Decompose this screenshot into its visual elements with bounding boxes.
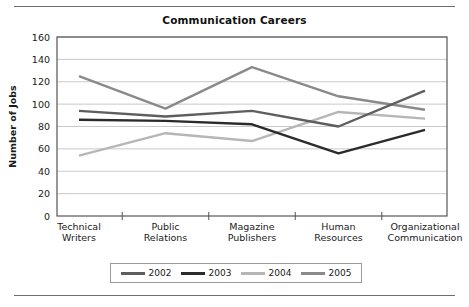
legend-item-2005[interactable]: 2005	[301, 269, 352, 278]
x-axis-category-label: Communication	[388, 232, 463, 243]
legend-label-2004: 2004	[269, 269, 292, 278]
legend-swatch-2005	[301, 272, 325, 275]
x-axis-category-label: Magazine	[229, 221, 275, 232]
line-chart-plot: 020406080100120140160TechnicalWritersPub…	[0, 0, 469, 307]
x-axis-category-label: Publishers	[228, 232, 277, 243]
legend-swatch-2003	[181, 272, 205, 275]
y-axis-tick-label: 100	[32, 99, 50, 110]
y-axis-tick-label: 0	[44, 211, 50, 222]
chart-legend: 2002200320042005	[110, 263, 362, 283]
legend-item-2004[interactable]: 2004	[241, 269, 292, 278]
legend-swatch-2004	[241, 272, 265, 275]
x-axis-category-label: Resources	[314, 232, 363, 243]
series-line-2005	[79, 67, 425, 110]
x-axis-category-label: Technical	[56, 221, 101, 232]
chart-figure: Communication Careers 020406080100120140…	[0, 0, 469, 307]
x-axis-category-label: Relations	[144, 232, 188, 243]
legend-item-2003[interactable]: 2003	[181, 269, 232, 278]
legend-swatch-2002	[121, 272, 145, 275]
x-axis-category-label: Public	[151, 221, 179, 232]
y-axis-tick-label: 120	[32, 76, 50, 87]
legend-label-2005: 2005	[329, 269, 352, 278]
x-axis-category-label: Writers	[62, 232, 96, 243]
y-axis-tick-label: 160	[32, 32, 50, 43]
series-line-2003	[79, 120, 425, 154]
y-axis-tick-label: 40	[38, 166, 50, 177]
y-axis-tick-label: 80	[38, 121, 50, 132]
legend-label-2003: 2003	[209, 269, 232, 278]
bottom-divider-rule	[14, 295, 455, 296]
y-axis-title: Number of Jobs	[7, 85, 18, 168]
legend-item-2002[interactable]: 2002	[121, 269, 172, 278]
y-axis-tick-label: 140	[32, 54, 50, 65]
x-axis-category-label: Human	[321, 221, 355, 232]
x-axis-category-label: Organizational	[390, 221, 459, 232]
legend-label-2002: 2002	[149, 269, 172, 278]
y-axis-tick-label: 20	[38, 188, 50, 199]
y-axis-tick-label: 60	[38, 143, 50, 154]
